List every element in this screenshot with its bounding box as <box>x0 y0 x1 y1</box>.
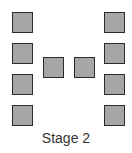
stage-caption: Stage 2 <box>0 130 132 146</box>
square-right-3 <box>104 74 125 95</box>
square-right-2 <box>104 43 125 64</box>
square-middle-1 <box>43 57 64 78</box>
square-left-1 <box>12 12 33 33</box>
square-left-4 <box>12 105 33 126</box>
square-left-3 <box>12 74 33 95</box>
square-middle-2 <box>74 57 95 78</box>
square-right-4 <box>104 105 125 126</box>
square-right-1 <box>104 12 125 33</box>
square-left-2 <box>12 43 33 64</box>
